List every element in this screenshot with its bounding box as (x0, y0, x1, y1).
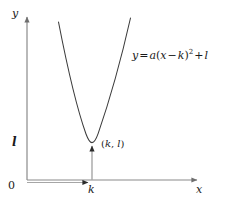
y-axis-label: y (12, 8, 18, 19)
equation-plus: + (193, 49, 204, 62)
equation-constant: l (204, 49, 208, 62)
equation-equals: = (138, 49, 149, 62)
parabola-curve (59, 18, 131, 143)
equation-variable: x (160, 49, 166, 62)
equation-label: y=a(x−k)2+l (132, 50, 208, 61)
x-axis-label: x (196, 184, 202, 195)
parabola-figure: y x 0 l k (k, l) y=a(x−k)2+l (0, 0, 229, 204)
origin-label: 0 (8, 180, 15, 191)
vertex-coordinate-label: (k, l) (101, 139, 124, 149)
x-value-label-k: k (88, 184, 95, 195)
figure-canvas (0, 0, 229, 204)
equation-minus: − (167, 49, 178, 62)
y-intercept-label-l: l (12, 136, 17, 148)
vertex-close-paren: ) (121, 138, 125, 149)
